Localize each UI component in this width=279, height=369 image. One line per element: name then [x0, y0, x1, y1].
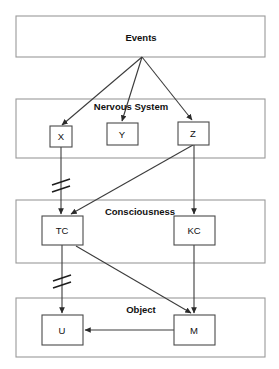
diagram-svg: XYZTCKCUM EventsNervous SystemConsciousn… [0, 0, 279, 369]
node-label-TC: TC [56, 225, 69, 236]
node-label-M: M [190, 325, 198, 336]
edge-z-to-tc [71, 145, 193, 214]
edge-tc-to-m [76, 246, 191, 313]
node-label-X: X [58, 131, 65, 142]
edges [61, 57, 194, 330]
node-M[interactable]: M [174, 315, 215, 345]
node-label-KC: KC [187, 225, 200, 236]
node-TC[interactable]: TC [42, 216, 83, 245]
node-label-Y: Y [119, 129, 126, 140]
node-U[interactable]: U [42, 315, 83, 345]
group-label-nervous: Nervous System [94, 101, 168, 112]
node-X[interactable]: X [50, 126, 72, 147]
group-label-events: Events [125, 32, 156, 43]
node-Z[interactable]: Z [178, 122, 209, 145]
diagram-canvas: XYZTCKCUM EventsNervous SystemConsciousn… [0, 0, 279, 369]
group-label-object: Object [126, 304, 156, 315]
node-label-U: U [59, 325, 66, 336]
edge-events-to-x [62, 57, 142, 125]
node-KC[interactable]: KC [174, 216, 215, 245]
group-label-consciousness: Consciousness [105, 206, 175, 217]
node-label-Z: Z [190, 128, 196, 139]
group-labels: EventsNervous SystemConsciousnessObject [94, 32, 175, 315]
node-Y[interactable]: Y [107, 123, 138, 145]
